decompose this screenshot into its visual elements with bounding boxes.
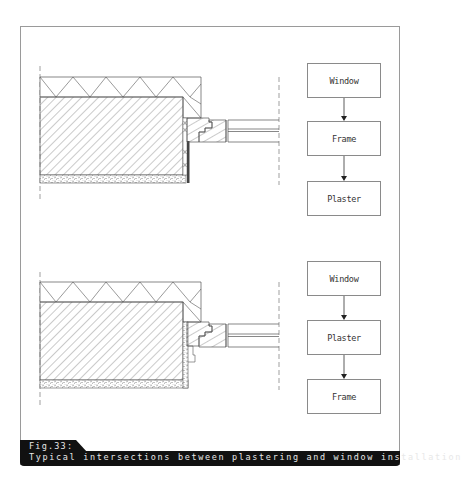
flowchart-bottom-step-frame: Frame: [307, 379, 381, 414]
detail-bottom-section: [40, 272, 347, 405]
figure-number: Fig.33:: [29, 441, 73, 451]
flowchart-top-step-window: Window: [307, 63, 381, 98]
flowchart-top-step-frame: Frame: [307, 121, 381, 156]
flowchart-bottom-step-window: Window: [307, 261, 381, 296]
flowchart-bottom-step-plaster: Plaster: [307, 320, 381, 355]
detail-top-section: [40, 66, 347, 200]
figure-caption: Typical intersections between plastering…: [29, 452, 462, 462]
flowchart-top-step-plaster: Plaster: [307, 181, 381, 216]
